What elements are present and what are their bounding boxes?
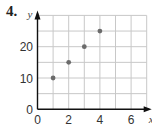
data-point [51,76,56,81]
x-tick-label: 0 [34,113,41,127]
y-tick-label: 20 [20,40,34,54]
axes [35,10,152,112]
data-point [98,29,103,34]
grid-lines [38,15,147,109]
data-point [66,60,71,65]
y-tick-label: 10 [20,72,34,86]
y-tick-label: 0 [26,103,33,117]
x-tick-label: 4 [97,113,104,127]
y-axis-label: y [27,8,33,20]
data-point [82,44,87,49]
x-tick-label: 2 [65,113,72,127]
data-points [51,29,103,81]
x-axis-arrow-icon [144,106,152,112]
x-axis-label: x [148,113,152,125]
x-tick-label: 6 [128,113,135,127]
scatter-chart: 024601020xy [0,0,152,129]
